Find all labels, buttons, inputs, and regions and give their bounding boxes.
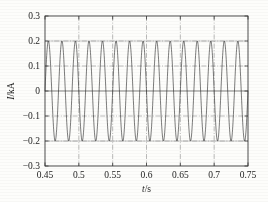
x-tick-label: 0.5 xyxy=(73,170,85,180)
chart-plot: 0.450.50.550.60.650.70.75 −0.3−0.2−0.100… xyxy=(0,0,268,202)
y-tick-label: −0.2 xyxy=(23,136,40,146)
y-tick-label: −0.3 xyxy=(23,161,40,171)
y-axis-title: I/kA xyxy=(6,82,16,101)
y-tick-label: 0.3 xyxy=(28,11,40,21)
figure-container: 0.450.50.550.60.650.70.75 −0.3−0.2−0.100… xyxy=(0,0,268,202)
y-tick-label: 0.2 xyxy=(28,36,40,46)
y-tick-label: 0.1 xyxy=(28,61,40,71)
x-tick-label: 0.7 xyxy=(208,170,220,180)
x-tick-label: 0.6 xyxy=(141,170,153,180)
x-tick-label: 0.65 xyxy=(172,170,189,180)
x-tick-label: 0.55 xyxy=(104,170,121,180)
y-tick-label: 0 xyxy=(35,86,40,96)
x-axis-title: t/s xyxy=(142,184,151,194)
x-tick-label: 0.45 xyxy=(37,170,54,180)
x-tick-label: 0.75 xyxy=(240,170,257,180)
y-tick-label: −0.1 xyxy=(23,111,40,121)
